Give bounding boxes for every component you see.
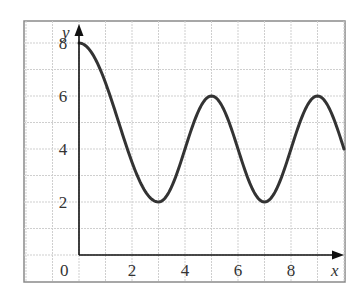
- x-tick-label: 6: [234, 261, 243, 280]
- origin-label: 0: [60, 261, 69, 280]
- y-axis-label: y: [60, 23, 70, 42]
- y-tick-label: 2: [59, 193, 68, 212]
- line-chart: 24682468 y x 0: [0, 0, 359, 296]
- y-tick-label: 6: [59, 87, 68, 106]
- x-tick-label: 8: [287, 261, 296, 280]
- x-tick-label: 2: [128, 261, 137, 280]
- x-axis-label: x: [330, 261, 339, 280]
- x-tick-label: 4: [181, 261, 190, 280]
- y-tick-label: 4: [59, 140, 68, 159]
